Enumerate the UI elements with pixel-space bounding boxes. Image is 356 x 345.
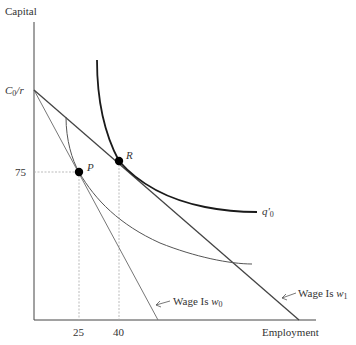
- w0-var: w: [211, 295, 218, 307]
- arrow-w0-icon: [156, 301, 170, 307]
- w0-sub: 0: [219, 300, 223, 309]
- x-tick-40: 40: [113, 327, 124, 338]
- w0-prefix: Wage Is: [173, 295, 211, 307]
- point-p: [75, 168, 83, 176]
- point-p-label: P: [87, 162, 94, 173]
- w1-sub: 1: [344, 292, 348, 301]
- w1-var: w: [336, 287, 343, 299]
- x-axis-label: Employment: [262, 327, 319, 338]
- isoquant-q0-prime-label: q'0: [262, 206, 274, 219]
- isoquant-q0-curve: [66, 117, 252, 264]
- x-tick-25: 25: [73, 327, 84, 338]
- w1-prefix: Wage Is: [298, 287, 336, 299]
- q-main: q': [262, 205, 270, 217]
- y-tick-75: 75: [15, 167, 26, 178]
- isocost-line-w0: [34, 90, 158, 320]
- y-tick-c0-over-r: C0/r: [5, 85, 24, 98]
- isocost-line-w1: [34, 90, 299, 320]
- point-r-label: R: [126, 150, 133, 161]
- c0r-rest: /r: [16, 84, 23, 96]
- y-axis-label: Capital: [5, 6, 37, 17]
- isoquant-q0-prime-curve: [97, 60, 257, 212]
- point-r: [115, 157, 123, 165]
- isocost-w0-label: Wage Is w0: [173, 296, 223, 309]
- isocost-w1-label: Wage Is w1: [298, 288, 348, 301]
- q-sub: 0: [270, 210, 274, 219]
- arrow-w1-icon: [282, 293, 296, 300]
